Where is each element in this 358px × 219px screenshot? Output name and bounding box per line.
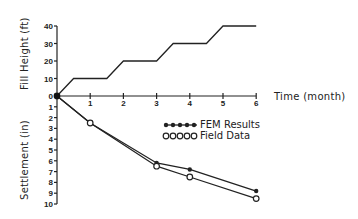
- field-marker: [163, 133, 169, 139]
- legend-label-fem: FEM Results: [200, 119, 260, 130]
- settlement-tick-label: 6: [49, 157, 54, 166]
- settlement-tick-label: 2: [49, 114, 54, 123]
- time-tick-label: 6: [254, 99, 259, 108]
- fill-tick-label: 20: [44, 57, 53, 66]
- fill-tick-label: 40: [44, 22, 53, 31]
- fill-tick-label: 30: [44, 40, 53, 49]
- time-tick-label: 2: [121, 99, 126, 108]
- field-marker: [154, 163, 160, 169]
- origin-marker: [54, 93, 60, 99]
- settlement-axis-title: Settlement (in): [19, 120, 30, 200]
- fem-results-line: [57, 96, 256, 191]
- axes: [57, 26, 256, 204]
- time-tick-label: 1: [88, 99, 93, 108]
- fem-marker: [254, 189, 258, 193]
- field-marker: [184, 133, 190, 139]
- settlement-tick-label: 5: [49, 146, 54, 155]
- fem-marker: [164, 123, 168, 127]
- settlement-ticks: 12345678910: [44, 103, 57, 209]
- settlement-tick-label: 7: [49, 168, 54, 177]
- time-ticks: 123456: [88, 93, 259, 108]
- field-marker: [177, 133, 183, 139]
- legend: FEM Results Field Data: [163, 119, 260, 141]
- fem-marker: [171, 123, 175, 127]
- field-marker: [253, 196, 259, 202]
- field-data-line: [57, 96, 256, 199]
- fill-height-axis-title: Fill Height (ft): [19, 17, 30, 90]
- settlement-tick-label: 8: [49, 178, 54, 187]
- legend-item-field-data: [163, 133, 197, 139]
- time-tick-label: 5: [221, 99, 226, 108]
- fill-height-ticks: 010203040: [44, 22, 57, 101]
- settlement-tick-label: 3: [49, 124, 54, 133]
- fem-marker: [185, 123, 189, 127]
- fill-tick-label: 0: [49, 92, 54, 101]
- settlement-tick-label: 9: [49, 189, 54, 198]
- field-marker: [170, 133, 176, 139]
- time-tick-label: 3: [154, 99, 159, 108]
- time-tick-label: 4: [188, 99, 193, 108]
- time-axis-title: Time (month): [273, 91, 346, 102]
- fill-settlement-chart: 010203040 12345678910 123456 Fill Height…: [0, 0, 358, 219]
- legend-label-field: Field Data: [200, 130, 250, 141]
- settlement-tick-label: 1: [49, 103, 54, 112]
- field-marker: [191, 133, 197, 139]
- settlement-tick-label: 10: [44, 200, 53, 209]
- settlement-tick-label: 4: [49, 135, 54, 144]
- field-marker: [87, 120, 93, 126]
- series-layer: [54, 26, 259, 201]
- field-marker: [187, 174, 193, 180]
- fill-height-line: [57, 26, 256, 96]
- fem-marker: [178, 123, 182, 127]
- fem-marker: [188, 167, 192, 171]
- legend-item-fem-results: [164, 123, 197, 127]
- fem-marker: [192, 123, 196, 127]
- fill-tick-label: 10: [44, 75, 53, 84]
